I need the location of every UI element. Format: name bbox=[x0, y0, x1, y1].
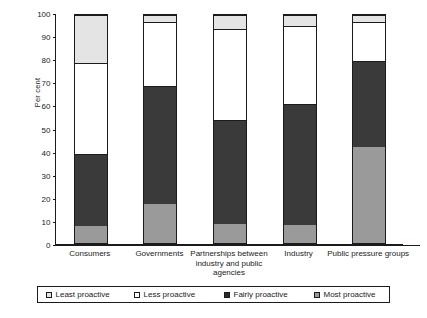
y-axis-tick-label: 60 bbox=[42, 102, 51, 111]
x-axis-label: Partnerships betweenindustry and publica… bbox=[173, 249, 285, 278]
bar-segment-most-proactive[interactable] bbox=[284, 225, 316, 243]
x-axis-label-line: Public pressure groups bbox=[312, 249, 424, 259]
legend-swatch-icon bbox=[46, 292, 52, 298]
bar-segment-less-proactive[interactable] bbox=[284, 26, 316, 104]
legend-item[interactable]: Less proactive bbox=[134, 290, 195, 299]
legend-swatch-icon bbox=[134, 292, 140, 298]
bar-series-group bbox=[56, 14, 403, 244]
y-axis-tick-label: 70 bbox=[42, 79, 51, 88]
x-axis-label: Consumers bbox=[55, 249, 125, 259]
x-axis-label-line: industry and public bbox=[173, 259, 285, 269]
legend-swatch-icon bbox=[224, 292, 230, 298]
stacked-bar[interactable] bbox=[74, 14, 108, 244]
y-axis-tick-label: 90 bbox=[42, 33, 51, 42]
legend-swatch-icon bbox=[314, 292, 320, 298]
legend-label: Fairly proactive bbox=[234, 290, 288, 299]
stacked-bar[interactable] bbox=[213, 14, 247, 244]
y-axis-tick-label: 30 bbox=[42, 171, 51, 180]
bar-segment-fairly-proactive[interactable] bbox=[144, 86, 176, 205]
bar-group[interactable] bbox=[74, 14, 108, 244]
bar-segment-most-proactive[interactable] bbox=[144, 204, 176, 243]
x-axis-label-line: agencies bbox=[173, 268, 285, 278]
bar-segment-less-proactive[interactable] bbox=[144, 22, 176, 86]
chart-legend: Least proactiveLess proactiveFairly proa… bbox=[37, 286, 390, 303]
bar-segment-fairly-proactive[interactable] bbox=[214, 120, 246, 224]
y-axis-tick-label: 40 bbox=[42, 148, 51, 157]
bar-segment-less-proactive[interactable] bbox=[214, 29, 246, 120]
legend-label: Most proactive bbox=[324, 290, 376, 299]
y-axis-tick-label: 10 bbox=[42, 217, 51, 226]
x-axis-line bbox=[55, 245, 420, 246]
bar-segment-fairly-proactive[interactable] bbox=[353, 61, 385, 148]
bar-group[interactable] bbox=[213, 14, 247, 244]
bar-group[interactable] bbox=[143, 14, 177, 244]
legend-label: Less proactive bbox=[144, 290, 196, 299]
bar-group[interactable] bbox=[283, 14, 317, 244]
bar-segment-most-proactive[interactable] bbox=[353, 147, 385, 243]
bar-segment-most-proactive[interactable] bbox=[75, 226, 107, 243]
x-axis-label-line: Partnerships between bbox=[173, 249, 285, 259]
y-axis-tick-label: 20 bbox=[42, 194, 51, 203]
bar-segment-least-proactive[interactable] bbox=[75, 15, 107, 63]
bar-segment-less-proactive[interactable] bbox=[75, 63, 107, 154]
legend-item[interactable]: Fairly proactive bbox=[224, 290, 288, 299]
bar-segment-least-proactive[interactable] bbox=[284, 15, 316, 26]
stacked-bar[interactable] bbox=[283, 14, 317, 244]
y-axis-tick-label: 100 bbox=[37, 10, 50, 19]
bar-segment-most-proactive[interactable] bbox=[214, 224, 246, 243]
y-axis-title: Per cent bbox=[33, 53, 42, 133]
bar-segment-least-proactive[interactable] bbox=[144, 15, 176, 22]
bar-segment-fairly-proactive[interactable] bbox=[284, 104, 316, 225]
bar-segment-least-proactive[interactable] bbox=[214, 15, 246, 29]
x-axis-label-line: Consumers bbox=[55, 249, 125, 259]
bar-segment-fairly-proactive[interactable] bbox=[75, 154, 107, 226]
bar-segment-less-proactive[interactable] bbox=[353, 22, 385, 61]
legend-item[interactable]: Least proactive bbox=[46, 290, 110, 299]
bar-group[interactable] bbox=[352, 14, 386, 244]
legend-item[interactable]: Most proactive bbox=[314, 290, 376, 299]
y-axis-tick-label: 0 bbox=[46, 241, 50, 250]
x-axis-label: Public pressure groups bbox=[312, 249, 424, 259]
y-axis-tick-label: 80 bbox=[42, 56, 51, 65]
chart-container: Per cent 0102030405060708090100 Consumer… bbox=[0, 0, 427, 318]
plot-area: 0102030405060708090100 bbox=[55, 14, 403, 245]
bar-segment-least-proactive[interactable] bbox=[353, 15, 385, 22]
legend-label: Least proactive bbox=[56, 290, 110, 299]
y-axis-tick-label: 50 bbox=[42, 125, 51, 134]
stacked-bar[interactable] bbox=[352, 14, 386, 244]
stacked-bar[interactable] bbox=[143, 14, 177, 244]
